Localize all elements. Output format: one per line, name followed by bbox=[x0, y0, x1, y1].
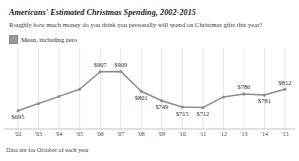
data-point-label: $695 bbox=[12, 113, 25, 120]
x-axis-tick-label: '07 bbox=[117, 131, 124, 137]
line-chart-svg: $695$907$909$801$749$715$712$786$781$812 bbox=[0, 48, 299, 133]
data-point-label: $749 bbox=[155, 103, 168, 110]
chart-legend: Mean, including zero bbox=[9, 35, 77, 44]
data-point-label: $801 bbox=[135, 94, 148, 101]
data-point-marker bbox=[201, 106, 204, 109]
chart-figure: Americans' Estimated Christmas Spending,… bbox=[0, 0, 299, 161]
data-point-label: $715 bbox=[176, 110, 189, 117]
x-axis-tick-label: '10 bbox=[179, 131, 186, 137]
square-swatch-icon bbox=[9, 35, 18, 44]
x-axis-tick-label: '14 bbox=[261, 131, 268, 137]
data-point-marker bbox=[263, 93, 266, 96]
data-point-marker bbox=[160, 99, 163, 102]
x-axis-tick-label: '15 bbox=[281, 131, 288, 137]
series-line-mean-including-zero bbox=[18, 71, 285, 110]
x-axis-tick-label: '08 bbox=[138, 131, 145, 137]
data-point-marker bbox=[78, 88, 81, 91]
x-axis-tick-label: '09 bbox=[158, 131, 165, 137]
x-axis-tick-label: '02 bbox=[14, 131, 21, 137]
data-point-label: $786 bbox=[238, 83, 251, 90]
x-axis-tick-label: '04 bbox=[56, 131, 63, 137]
chart-footnote: Data are for October of each year bbox=[6, 146, 89, 153]
x-axis-tick-label: '11 bbox=[199, 131, 206, 137]
plot-area: $695$907$909$801$749$715$712$786$781$812 bbox=[0, 48, 299, 133]
chart-title: Americans' Estimated Christmas Spending,… bbox=[9, 8, 196, 17]
data-point-marker bbox=[37, 102, 40, 105]
data-point-label: $712 bbox=[196, 110, 209, 117]
data-point-marker bbox=[140, 90, 143, 93]
x-axis-tick-label: '06 bbox=[97, 131, 104, 137]
x-axis-tick-label: '03 bbox=[35, 131, 42, 137]
chart-subtitle: Roughly how much money do you think you … bbox=[9, 21, 262, 28]
legend-item-label: Mean, including zero bbox=[21, 36, 77, 43]
data-point-marker bbox=[222, 95, 225, 98]
data-point-label: $907 bbox=[94, 61, 108, 68]
data-point-marker bbox=[58, 95, 61, 98]
x-axis-tick-label: '12 bbox=[220, 131, 227, 137]
data-point-marker bbox=[99, 70, 102, 73]
data-point-marker bbox=[284, 88, 287, 91]
data-point-marker bbox=[242, 92, 245, 95]
data-point-label: $909 bbox=[114, 61, 127, 68]
data-point-label: $781 bbox=[258, 97, 271, 104]
x-axis-tick-label: '05 bbox=[76, 131, 83, 137]
x-axis-tick-labels: '02'03'04'05'06'07'08'09'10'11'12'13'14'… bbox=[0, 131, 299, 143]
x-axis-tick-label: '13 bbox=[240, 131, 247, 137]
data-point-marker bbox=[17, 109, 20, 112]
data-point-label: $812 bbox=[279, 79, 292, 86]
data-point-marker bbox=[181, 106, 184, 109]
data-point-marker bbox=[119, 70, 122, 73]
